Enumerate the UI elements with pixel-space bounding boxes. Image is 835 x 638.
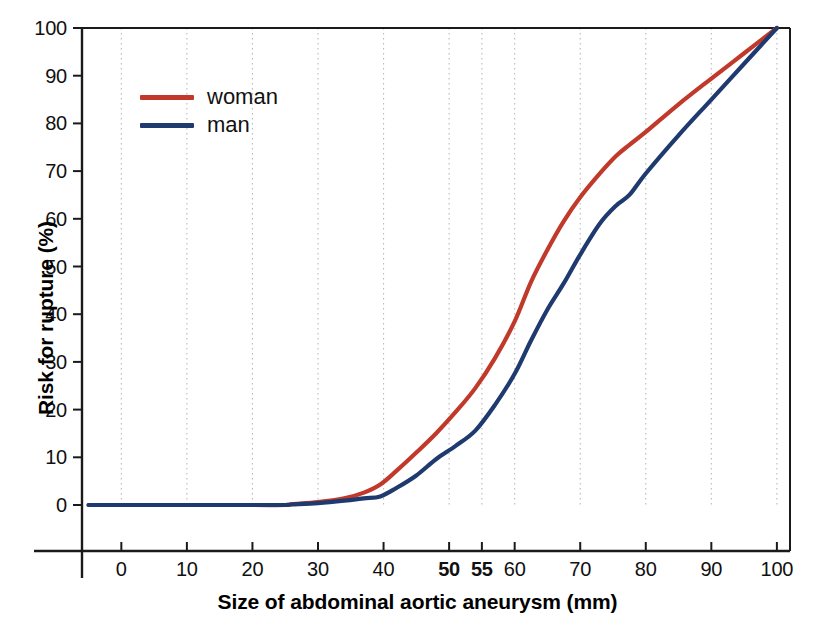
legend-label: man: [207, 114, 250, 136]
chart-figure: 0102030405060708090100 01020304050556070…: [0, 0, 835, 638]
x-axis-title: Size of abdominal aortic aneurysm (mm): [0, 590, 835, 614]
x-tick-label: 80: [616, 559, 676, 579]
x-tick-label: 90: [681, 559, 741, 579]
x-tick-label: 40: [354, 559, 414, 579]
legend-swatch-icon: [140, 123, 194, 128]
x-tick-label: 100: [747, 559, 807, 579]
y-tick-label: 90: [11, 66, 67, 86]
x-tick-label: 30: [288, 559, 348, 579]
legend-swatch-icon: [140, 95, 194, 100]
y-tick-label: 0: [11, 495, 67, 515]
x-tick-label: 60: [485, 559, 545, 579]
legend-item-man: man: [140, 111, 278, 139]
x-tick-label: 0: [91, 559, 151, 579]
x-tick-label: 20: [222, 559, 282, 579]
y-tick-label: 100: [11, 18, 67, 38]
chart-legend: womanman: [140, 83, 278, 139]
x-tick-label: 10: [157, 559, 217, 579]
legend-item-woman: woman: [140, 83, 278, 111]
chart-plot-area: [0, 0, 835, 638]
y-tick-label: 80: [11, 113, 67, 133]
x-tick-label: 70: [550, 559, 610, 579]
y-axis-title: Risk for rupture (%): [34, 168, 58, 468]
legend-label: woman: [207, 86, 278, 108]
